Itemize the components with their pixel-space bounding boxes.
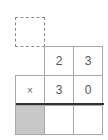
multiplier-digit-tens: 3: [44, 75, 74, 105]
result-cell-hundreds[interactable]: [15, 105, 45, 135]
carry-box[interactable]: [15, 17, 45, 47]
multiplicand-digit-tens: 2: [44, 46, 74, 76]
result-cell-ones[interactable]: [73, 105, 103, 135]
multiply-operator: ×: [15, 75, 45, 105]
multiplicand-digit-ones: 3: [73, 46, 103, 76]
result-cell-tens[interactable]: [44, 105, 74, 135]
multiplier-digit-ones: 0: [73, 75, 103, 105]
